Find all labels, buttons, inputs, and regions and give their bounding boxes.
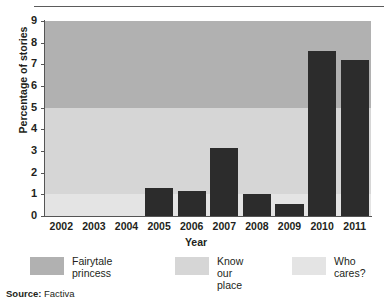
y-tick-2	[41, 173, 45, 174]
y-tick-label-1: 1	[7, 188, 37, 199]
plot-area	[45, 21, 371, 216]
top-divider	[34, 6, 384, 7]
bar-2011	[341, 60, 369, 216]
y-tick-6	[41, 86, 45, 87]
x-tick-label-2011: 2011	[338, 220, 371, 232]
x-tick-label-2009: 2009	[273, 220, 306, 232]
x-tick-label-2010: 2010	[306, 220, 339, 232]
source-value: Factiva	[44, 288, 75, 299]
legend-swatch-2	[175, 257, 209, 275]
source-note: Source: Factiva	[6, 288, 75, 299]
legend-label-2: Know our place	[217, 255, 243, 291]
bar-2009	[275, 204, 303, 216]
y-tick-0	[41, 216, 45, 217]
chart-legend: Fairytale princessKnow our placeWho care…	[0, 255, 392, 287]
y-tick-7	[41, 64, 45, 65]
x-axis-title: Year	[0, 236, 392, 248]
bar-2006	[178, 191, 206, 216]
x-axis-line	[44, 216, 372, 217]
legend-swatch-3	[292, 257, 326, 275]
x-tick-label-2003: 2003	[78, 220, 111, 232]
x-tick-label-2002: 2002	[45, 220, 78, 232]
x-tick-label-2004: 2004	[110, 220, 143, 232]
y-tick-4	[41, 129, 45, 130]
y-axis-title: Percentage of stories	[17, 5, 29, 155]
x-tick-label-2008: 2008	[241, 220, 274, 232]
x-tick-label-2006: 2006	[175, 220, 208, 232]
y-tick-label-2: 2	[7, 167, 37, 178]
y-tick-1	[41, 194, 45, 195]
legend-swatch-1	[30, 257, 64, 275]
bar-2008	[243, 194, 271, 216]
x-tick-label-2007: 2007	[208, 220, 241, 232]
y-axis-line	[44, 20, 45, 217]
y-tick-3	[41, 151, 45, 152]
y-tick-label-0: 0	[7, 210, 37, 221]
y-tick-9	[41, 21, 45, 22]
bar-2007	[210, 148, 238, 216]
x-tick-label-2005: 2005	[143, 220, 176, 232]
y-tick-8	[41, 43, 45, 44]
y-tick-5	[41, 108, 45, 109]
figure-container: 0123456789 Percentage of stories 2002200…	[0, 0, 392, 303]
legend-label-1: Fairytale princess	[72, 255, 112, 279]
bar-2005	[145, 188, 173, 216]
bar-2010	[308, 51, 336, 216]
legend-label-3: Who cares?	[334, 255, 366, 279]
source-label: Source:	[6, 288, 41, 299]
